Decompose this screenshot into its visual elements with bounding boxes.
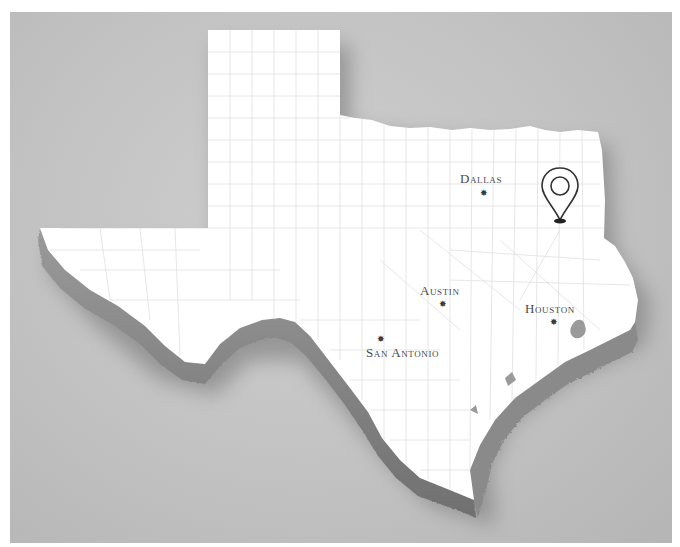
map-frame: Dallas ✸ Austin ✸ Houston ✸ ✸ San Antoni…: [10, 12, 672, 543]
star-icon: ✸: [480, 189, 488, 198]
star-icon: ✸: [439, 300, 447, 309]
city-label-san-antonio: San Antonio: [366, 345, 439, 361]
city-label-austin: Austin: [420, 283, 460, 299]
texas-map: [10, 12, 672, 543]
star-icon: ✸: [550, 318, 558, 327]
star-icon: ✸: [377, 335, 385, 344]
map-pin-icon[interactable]: [535, 162, 585, 232]
city-label-dallas: Dallas: [460, 171, 502, 187]
city-label-houston: Houston: [525, 301, 575, 317]
texas-land: [40, 30, 638, 500]
